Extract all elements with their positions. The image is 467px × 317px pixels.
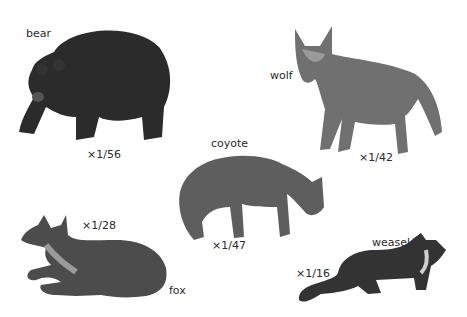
bear-illustration <box>14 22 174 147</box>
bear-scale: ×1/56 <box>87 149 121 160</box>
fox-label: fox <box>169 285 186 296</box>
wolf-illustration <box>290 24 445 159</box>
coyote-scale: ×1/47 <box>212 240 246 251</box>
fox-illustration <box>16 210 171 305</box>
wolf-scale: ×1/42 <box>359 152 393 163</box>
weasel-illustration <box>296 228 451 308</box>
coyote-label: coyote <box>211 138 248 149</box>
